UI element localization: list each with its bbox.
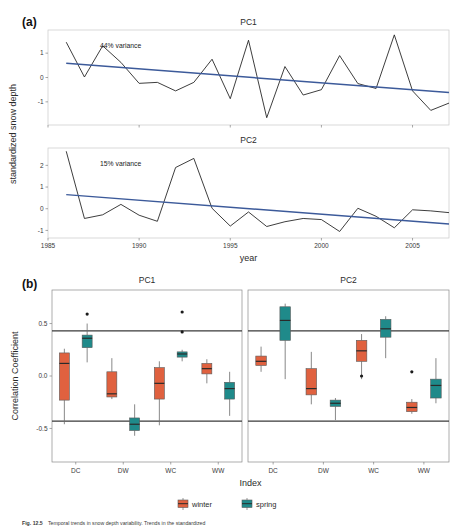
- x-tick-label-WC: WC: [368, 467, 379, 474]
- figure-container: (a)PC1-10144% variancePC2-10121985199019…: [0, 0, 456, 528]
- x-tick-label-DW: DW: [318, 467, 330, 474]
- boxplot-box[interactable]: [330, 398, 341, 420]
- x-tick-label-DC: DC: [268, 467, 278, 474]
- x-tick-label: 2005: [405, 242, 420, 249]
- box-rect: [107, 372, 117, 397]
- boxplot-box[interactable]: [256, 347, 267, 372]
- box-rect: [431, 379, 442, 398]
- facet-title-PC2: PC2: [240, 135, 257, 145]
- trend-line: [66, 63, 449, 92]
- boxplot-box[interactable]: [407, 370, 418, 414]
- panel-a-y-axis-title: standardized snow depth: [8, 84, 18, 184]
- y-tick-label: 0.0: [38, 372, 47, 379]
- x-tick-label-WW: WW: [418, 467, 431, 474]
- y-tick-label: -1: [38, 98, 44, 105]
- box-rect: [225, 382, 235, 399]
- x-tick-label: 1995: [223, 242, 238, 249]
- box-rect: [59, 353, 69, 400]
- outlier-point: [360, 374, 363, 377]
- x-tick-label-DC: DC: [71, 467, 81, 474]
- x-tick-label-WC: WC: [165, 467, 176, 474]
- legend-label-spring: spring: [256, 500, 276, 509]
- y-tick-label: 0.5: [38, 320, 47, 327]
- boxplot-box[interactable]: [130, 404, 140, 435]
- y-tick-label: 1: [40, 49, 44, 56]
- timeseries-facet-PC2: PC2-10121985199019952000200515% variance: [38, 135, 449, 249]
- boxplot-box[interactable]: [306, 352, 317, 404]
- boxplot-box[interactable]: [431, 358, 442, 403]
- boxplot-box[interactable]: [280, 304, 291, 380]
- caption-number: Fig. 12.5: [22, 520, 43, 526]
- panel-a-label: (a): [22, 15, 37, 29]
- boxplot-box[interactable]: [202, 359, 212, 383]
- x-tick-label-WW: WW: [212, 467, 225, 474]
- variance-annotation: 44% variance: [100, 42, 141, 49]
- y-tick-label: -1: [38, 227, 44, 234]
- panel-border: [248, 290, 449, 462]
- boxplot-box[interactable]: [154, 361, 164, 425]
- legend-item-spring[interactable]: spring: [242, 498, 276, 510]
- caption-text: Temporal trends in snow depth variabilit…: [48, 520, 205, 526]
- figure-caption: Fig. 12.5Temporal trends in snow depth v…: [22, 520, 205, 526]
- boxplot-box[interactable]: [356, 334, 367, 379]
- outlier-point: [410, 370, 413, 373]
- panel-a-x-axis-title: year: [240, 253, 258, 263]
- y-tick-label: -0.5: [36, 425, 48, 432]
- panel-border: [52, 290, 242, 462]
- x-tick-label-DW: DW: [118, 467, 130, 474]
- x-tick-label: 1985: [41, 242, 56, 249]
- y-tick-label: 1: [40, 183, 44, 190]
- timeseries-facet-PC1: PC1-10144% variance: [38, 17, 449, 128]
- x-tick-label: 2000: [314, 242, 329, 249]
- legend-item-winter[interactable]: winter: [178, 498, 213, 510]
- box-rect: [82, 335, 92, 348]
- boxplot-box[interactable]: [82, 313, 92, 363]
- figure-svg: (a)PC1-10144% variancePC2-10121985199019…: [0, 0, 456, 528]
- panel-b-x-axis-title: Index: [239, 478, 262, 488]
- panel-b-y-axis-title: Correlation Coefficient: [10, 331, 20, 420]
- outlier-point: [181, 330, 184, 333]
- y-tick-label: 0: [40, 205, 44, 212]
- boxplot-box[interactable]: [225, 372, 235, 416]
- outlier-point: [181, 310, 184, 313]
- facet-title-PC1: PC1: [240, 17, 257, 27]
- legend-label-winter: winter: [191, 500, 213, 509]
- y-tick-label: 2: [40, 162, 44, 169]
- x-tick-label: 1990: [132, 242, 147, 249]
- legend: winterspring: [178, 498, 276, 510]
- boxplot-box[interactable]: [107, 358, 117, 399]
- boxplot-box[interactable]: [59, 349, 69, 425]
- outlier-point: [86, 313, 89, 316]
- facet-title-PC2: PC2: [340, 275, 357, 285]
- boxplot-box[interactable]: [177, 310, 187, 361]
- boxplot-facet-PC1: PC1DCDWWCWW: [52, 275, 242, 474]
- y-tick-label: 0: [40, 74, 44, 81]
- box-rect: [280, 307, 291, 341]
- boxplot-facet-PC2: PC2DCDWWCWW: [248, 275, 449, 474]
- variance-annotation: 15% variance: [100, 160, 141, 167]
- box-rect: [306, 369, 317, 395]
- boxplot-box[interactable]: [380, 316, 391, 358]
- facet-title-PC1: PC1: [139, 275, 156, 285]
- panel-b-label: (b): [22, 277, 37, 291]
